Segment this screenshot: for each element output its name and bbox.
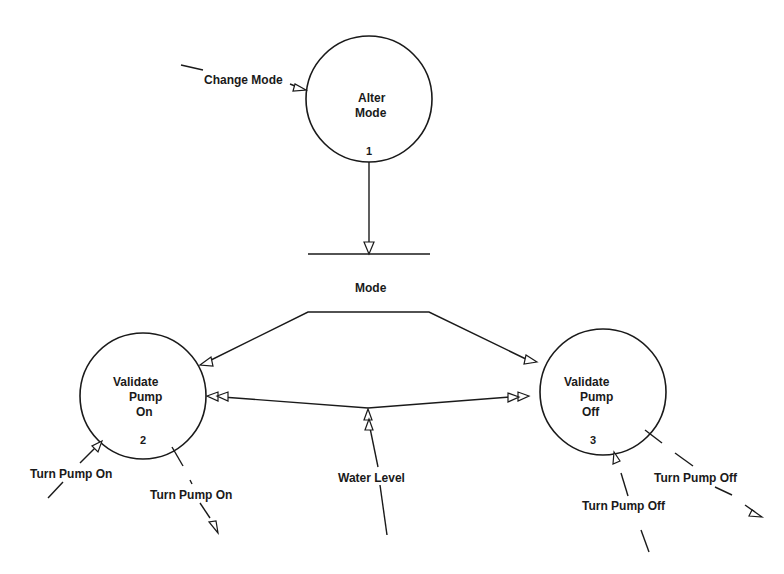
flow-turn-pump-on-out: Turn Pump On — [150, 447, 232, 533]
process-2-number: 2 — [140, 434, 146, 446]
flow-water-level: Water Level — [207, 392, 529, 535]
arrowhead-icon — [364, 409, 372, 420]
flow-change-mode: Change Mode — [181, 65, 306, 91]
data-store-mode[interactable]: Mode — [308, 254, 430, 295]
process-2-label-line2: Pump — [129, 390, 162, 404]
process-validate-pump-on[interactable]: Validate Pump On 2 — [80, 333, 206, 459]
arrowhead-icon — [749, 510, 762, 517]
flow-turn-pump-on-in: Turn Pump On — [30, 441, 112, 498]
process-3-label-line1: Validate — [564, 375, 610, 389]
process-3-label-line3: Off — [582, 405, 600, 419]
flow-label-turn-pump-on-in: Turn Pump On — [30, 467, 112, 481]
arrowhead-icon — [207, 392, 218, 401]
arrowhead-icon — [209, 521, 218, 533]
flow-label-turn-pump-off-out: Turn Pump Off — [654, 471, 738, 485]
arrowhead-icon — [293, 84, 306, 91]
flow-alter-to-store — [364, 162, 374, 254]
arrowhead-icon — [364, 242, 374, 254]
flow-label-water-level: Water Level — [338, 471, 405, 485]
process-validate-pump-off[interactable]: Validate Pump Off 3 — [540, 329, 666, 455]
data-store-label: Mode — [355, 281, 387, 295]
arrowhead-icon — [365, 419, 373, 430]
flow-store-to-processes — [200, 312, 537, 366]
arrowhead-icon — [524, 355, 537, 364]
process-3-number: 3 — [590, 434, 596, 446]
process-1-label-line1: Alter — [358, 91, 386, 105]
arrowhead-icon — [518, 392, 529, 401]
flow-turn-pump-off-in: Turn Pump Off — [582, 452, 666, 552]
data-flow-diagram: Alter Mode 1 Change Mode Mode Validate P… — [0, 0, 784, 574]
process-2-label-line1: Validate — [113, 375, 159, 389]
process-alter-mode[interactable]: Alter Mode 1 — [306, 36, 432, 162]
flow-label-turn-pump-on-out: Turn Pump On — [150, 488, 232, 502]
flow-label-change-mode: Change Mode — [204, 73, 283, 87]
process-1-number: 1 — [366, 145, 372, 157]
process-2-label-line3: On — [136, 405, 153, 419]
flow-label-turn-pump-off-in: Turn Pump Off — [582, 499, 666, 513]
arrowhead-icon — [200, 357, 213, 366]
arrowhead-icon — [508, 393, 519, 402]
process-1-label-line2: Mode — [355, 106, 387, 120]
process-3-label-line2: Pump — [580, 390, 613, 404]
arrowhead-icon — [217, 392, 228, 401]
